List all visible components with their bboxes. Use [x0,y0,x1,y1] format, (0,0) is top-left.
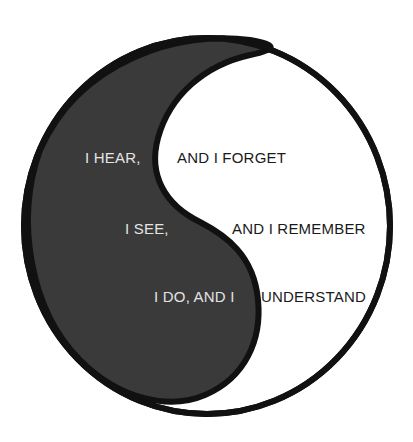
label-i-hear: I HEAR, [85,150,141,166]
label-i-do-and-i: I DO, AND I [154,289,235,305]
label-understand: UNDERSTAND [261,289,366,305]
label-and-i-remember: AND I REMEMBER [232,221,366,237]
label-and-i-forget: AND I FORGET [177,150,286,166]
label-i-see: I SEE, [125,221,169,237]
